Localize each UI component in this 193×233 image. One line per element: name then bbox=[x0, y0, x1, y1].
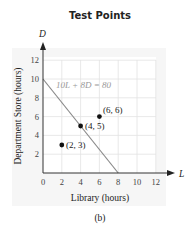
figure-caption: (b) bbox=[94, 213, 105, 224]
y-tick: 6 bbox=[35, 112, 39, 122]
y-axis-symbol: D bbox=[38, 29, 46, 39]
y-tick: 2 bbox=[35, 149, 39, 159]
point-label: (6, 6) bbox=[103, 105, 123, 115]
x-tick: 6 bbox=[97, 177, 101, 187]
point-label: (4, 5) bbox=[85, 121, 105, 131]
y-tick: 8 bbox=[35, 93, 39, 103]
x-tick: 8 bbox=[116, 177, 120, 187]
y-axis-title: Department Store (hours) bbox=[13, 67, 24, 164]
x-axis-arrow-icon bbox=[167, 170, 175, 176]
data-point bbox=[78, 124, 83, 129]
y-axis-arrow-icon bbox=[40, 42, 46, 50]
x-tick: 2 bbox=[60, 177, 64, 187]
x-axis-symbol: L bbox=[178, 169, 184, 179]
y-tick: 10 bbox=[31, 74, 40, 84]
x-tick: 10 bbox=[133, 177, 142, 187]
y-tick: 12 bbox=[31, 55, 40, 65]
x-axis-title: Library (hours) bbox=[71, 193, 129, 204]
equation-label: 10L + 8D = 80 bbox=[56, 80, 111, 90]
point-label: (2, 3) bbox=[66, 140, 86, 150]
x-tick: 0 bbox=[41, 177, 45, 187]
data-point bbox=[97, 114, 102, 119]
chart-canvas: L D 0 2 4 6 8 10 12 2 4 6 8 10 12 10L + … bbox=[0, 0, 193, 233]
x-tick: 12 bbox=[152, 177, 161, 187]
data-point bbox=[59, 143, 64, 148]
x-tick: 4 bbox=[78, 177, 83, 187]
